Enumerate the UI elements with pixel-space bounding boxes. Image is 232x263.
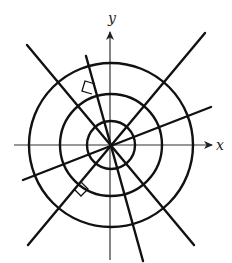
polar-grid-diagram: x y xyxy=(0,0,232,263)
ray-line-ne-sw xyxy=(28,33,205,245)
y-axis-label: y xyxy=(107,10,117,26)
x-axis-label: x xyxy=(216,137,224,153)
right-angle-marker-upper xyxy=(82,81,95,94)
ray-line-nnw-sse xyxy=(86,56,143,261)
